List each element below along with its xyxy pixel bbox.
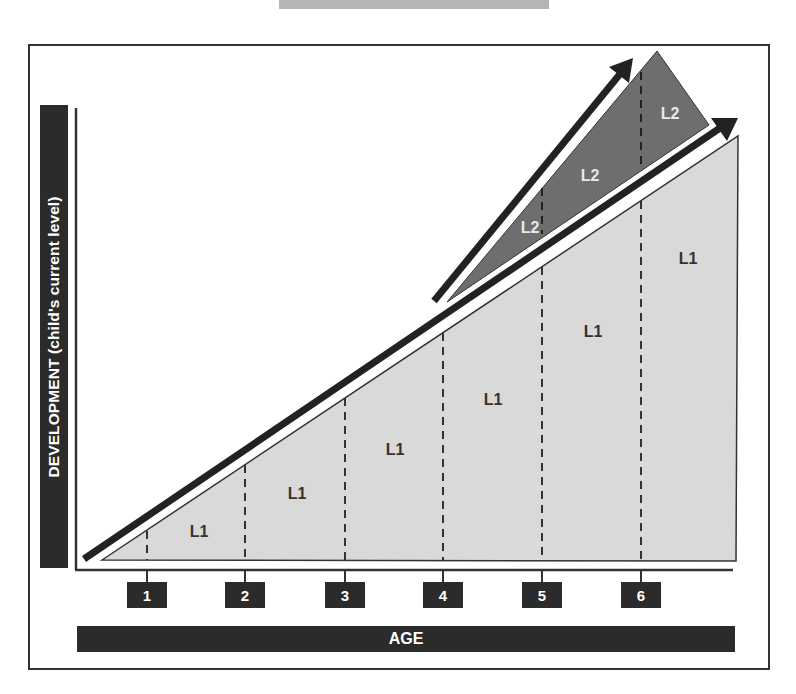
age-tick-3: 3 (325, 582, 365, 608)
l2-label-age-4: L2 (521, 219, 540, 237)
l1-region (102, 136, 738, 561)
age-tick-2: 2 (225, 582, 265, 608)
age-tick-4: 4 (423, 582, 463, 608)
age-tick-5: 5 (522, 582, 562, 608)
l2-label-age-5: L2 (581, 167, 600, 185)
l1-label-age-4: L1 (484, 391, 503, 409)
age-tick-6: 6 (621, 582, 661, 608)
l1-label-age-5: L1 (584, 323, 603, 341)
age-tick-marks (147, 570, 641, 582)
l1-label-age-1: L1 (190, 523, 209, 541)
l1-label-age-3: L1 (386, 441, 405, 459)
x-axis-label: AGE (77, 626, 735, 652)
l1-label-age-2: L1 (288, 485, 307, 503)
l2-label-age-6: L2 (661, 105, 680, 123)
age-tick-1: 1 (127, 582, 167, 608)
l1-label-age-6: L1 (679, 250, 698, 268)
